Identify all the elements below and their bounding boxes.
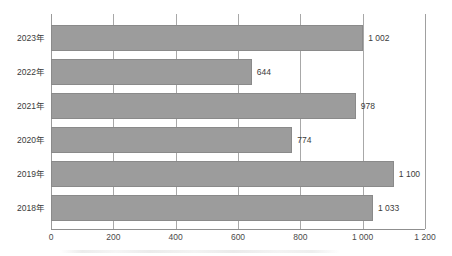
bar-2022年: [51, 59, 252, 85]
cut-off-caption-sliver: [60, 250, 340, 253]
bar-2021年: [51, 93, 356, 119]
bar-2020年: [51, 127, 292, 153]
category-label-2021年: 2021年: [0, 93, 45, 119]
x-tick-label-0: 0: [49, 232, 54, 242]
category-label-2022年: 2022年: [0, 59, 45, 85]
x-tick-label-600: 600: [231, 232, 245, 242]
x-axis-line: [51, 229, 425, 230]
bar-row: 2022年644: [0, 59, 452, 85]
category-label-2023年: 2023年: [0, 25, 45, 51]
value-label-2023年: 1 002: [368, 25, 389, 51]
bar-row: 2020年774: [0, 127, 452, 153]
bar-row: 2023年1 002: [0, 25, 452, 51]
category-label-2020年: 2020年: [0, 127, 45, 153]
bar-2018年: [51, 195, 373, 221]
value-label-2019年: 1 100: [399, 161, 420, 187]
chart-screenshot: 2023年1 0022022年6442021年9782020年7742019年1…: [0, 0, 452, 256]
bar-row: 2021年978: [0, 93, 452, 119]
x-tick-label-1000: 1 000: [352, 232, 373, 242]
bar-2019年: [51, 161, 394, 187]
category-label-2018年: 2018年: [0, 195, 45, 221]
x-tick-label-800: 800: [293, 232, 307, 242]
value-label-2020年: 774: [297, 127, 311, 153]
x-tick-label-200: 200: [106, 232, 120, 242]
value-label-2021年: 978: [361, 93, 375, 119]
x-tick-label-400: 400: [169, 232, 183, 242]
bar-2023年: [51, 25, 363, 51]
bar-row: 2018年1 033: [0, 195, 452, 221]
x-tick-label-1200: 1 200: [414, 232, 435, 242]
category-label-2019年: 2019年: [0, 161, 45, 187]
value-label-2018年: 1 033: [378, 195, 399, 221]
bar-row: 2019年1 100: [0, 161, 452, 187]
bar-chart-plot-area: 2023年1 0022022年6442021年9782020年7742019年1…: [0, 0, 452, 256]
value-label-2022年: 644: [257, 59, 271, 85]
